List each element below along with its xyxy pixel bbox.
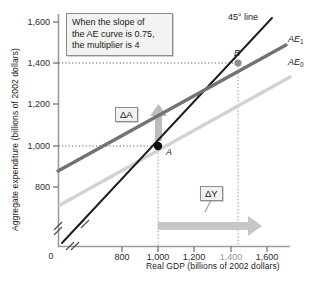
x-axis-title: Real GDP (billions of 2002 dollars) (146, 262, 280, 271)
ae0-label-text: AE (288, 57, 300, 67)
note-line-3: the multiplier is 4 (72, 40, 167, 52)
ae0-curve (60, 77, 290, 205)
point-a (154, 142, 162, 150)
y-axis-ticks (53, 22, 59, 187)
ae0-label: AE0 (288, 58, 304, 67)
y-tick-1400: 1,400 (18, 59, 50, 68)
x-tick-1600: 1,600 (251, 253, 283, 262)
point-b-label: B (234, 49, 240, 58)
y-tick-1200: 1,200 (18, 100, 50, 109)
ae1-label: AE1 (288, 35, 304, 44)
y-axis-title: Aggregate expenditure (billions of 2002 … (11, 48, 20, 231)
slope-multiplier-note: When the slope of the AE curve is 0.75, … (66, 13, 173, 56)
point-a-label: A (166, 148, 172, 157)
y-tick-800: 800 (18, 183, 50, 192)
x-tick-1000: 1,000 (142, 253, 174, 262)
ae1-label-sub: 1 (300, 38, 304, 45)
dotted-guides (59, 63, 239, 146)
line-45-label: 45° line (228, 13, 258, 22)
x-tick-1400: 1,400 (215, 253, 247, 262)
point-b (234, 59, 241, 66)
delta-y-arrow (158, 216, 262, 236)
delta-a-arrow (150, 104, 167, 141)
x-tick-1200: 1,200 (178, 253, 210, 262)
y-tick-1000: 1,000 (18, 142, 50, 151)
delta-y-label: ΔY (200, 186, 223, 201)
x-tick-800: 800 (106, 253, 138, 262)
delta-a-label: ΔA (115, 107, 138, 122)
chart-figure: Aggregate expenditure (billions of 2002 … (0, 0, 321, 285)
note-line-2: the AE curve is 0.75, (72, 29, 167, 41)
ae0-label-sub: 0 (300, 61, 304, 68)
note-line-1: When the slope of (72, 17, 167, 29)
y-tick-1600: 1,600 (18, 18, 50, 27)
origin-label: 0 (44, 252, 58, 261)
ae1-label-text: AE (288, 34, 300, 44)
